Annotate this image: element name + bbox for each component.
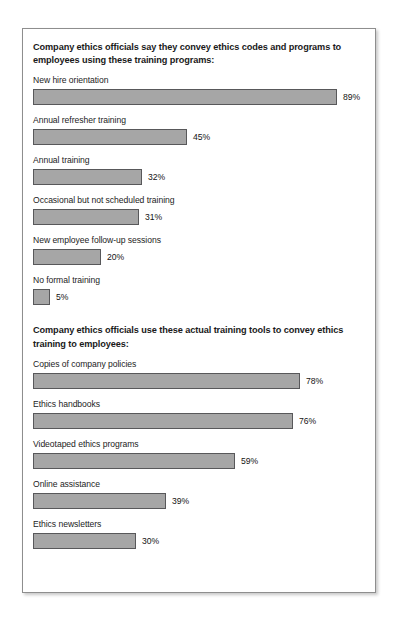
- bar-track: 5%: [33, 289, 367, 305]
- bar-row: Annual training32%: [33, 155, 367, 185]
- bar-category-label: Ethics newsletters: [33, 519, 367, 530]
- bar-fill: [33, 453, 235, 469]
- bar-category-label: Annual training: [33, 155, 367, 166]
- bar-value-label: 20%: [107, 251, 124, 263]
- bar-value-label: 89%: [343, 91, 360, 103]
- bar-fill: [33, 129, 187, 145]
- bar-row: New hire orientation89%: [33, 75, 367, 105]
- bar-row: Copies of company policies78%: [33, 359, 367, 389]
- bar-fill: [33, 533, 136, 549]
- bar-value-label: 5%: [56, 291, 68, 303]
- bar-track: 39%: [33, 493, 367, 509]
- bar-value-label: 30%: [142, 535, 159, 547]
- bar-value-label: 78%: [306, 375, 323, 387]
- bar-group-training-tools: Copies of company policies78%Ethics hand…: [33, 359, 367, 549]
- section-heading-training-tools: Company ethics officials use these actua…: [33, 324, 367, 350]
- bar-category-label: New employee follow-up sessions: [33, 235, 367, 246]
- bar-value-label: 39%: [172, 495, 189, 507]
- bar-category-label: Occasional but not scheduled training: [33, 195, 367, 206]
- bar-fill: [33, 289, 50, 305]
- bar-category-label: Copies of company policies: [33, 359, 367, 370]
- bar-fill: [33, 249, 101, 265]
- bar-row: No formal training5%: [33, 275, 367, 305]
- bar-fill: [33, 413, 293, 429]
- bar-category-label: Online assistance: [33, 479, 367, 490]
- section-heading-training-programs: Company ethics officials say they convey…: [33, 41, 367, 67]
- bar-category-label: Annual refresher training: [33, 115, 367, 126]
- bar-track: 31%: [33, 209, 367, 225]
- bar-row: Occasional but not scheduled training31%: [33, 195, 367, 225]
- chart-content: Company ethics officials say they convey…: [33, 37, 367, 586]
- bar-value-label: 31%: [145, 211, 162, 223]
- bar-value-label: 59%: [241, 455, 258, 467]
- bar-row: Annual refresher training45%: [33, 115, 367, 145]
- bar-category-label: New hire orientation: [33, 75, 367, 86]
- bar-track: 78%: [33, 373, 367, 389]
- bar-fill: [33, 169, 142, 185]
- bar-track: 32%: [33, 169, 367, 185]
- bar-row: Online assistance39%: [33, 479, 367, 509]
- bar-fill: [33, 493, 166, 509]
- chart-section-training-programs: Company ethics officials say they convey…: [33, 41, 367, 305]
- bar-fill: [33, 89, 337, 105]
- bar-value-label: 76%: [299, 415, 316, 427]
- bar-fill: [33, 209, 139, 225]
- bar-track: 59%: [33, 453, 367, 469]
- bar-track: 76%: [33, 413, 367, 429]
- bar-track: 30%: [33, 533, 367, 549]
- chart-section-training-tools: Company ethics officials use these actua…: [33, 324, 367, 548]
- bar-fill: [33, 373, 300, 389]
- bar-group-training-programs: New hire orientation89%Annual refresher …: [33, 75, 367, 305]
- bar-category-label: Ethics handbooks: [33, 399, 367, 410]
- bar-row: Videotaped ethics programs59%: [33, 439, 367, 469]
- bar-value-label: 45%: [193, 131, 210, 143]
- bar-track: 89%: [33, 89, 367, 105]
- bar-track: 20%: [33, 249, 367, 265]
- bar-category-label: Videotaped ethics programs: [33, 439, 367, 450]
- bar-row: Ethics newsletters30%: [33, 519, 367, 549]
- bar-row: New employee follow-up sessions20%: [33, 235, 367, 265]
- chart-frame: Company ethics officials say they convey…: [22, 28, 376, 593]
- bar-value-label: 32%: [148, 171, 165, 183]
- bar-row: Ethics handbooks76%: [33, 399, 367, 429]
- bar-track: 45%: [33, 129, 367, 145]
- bar-category-label: No formal training: [33, 275, 367, 286]
